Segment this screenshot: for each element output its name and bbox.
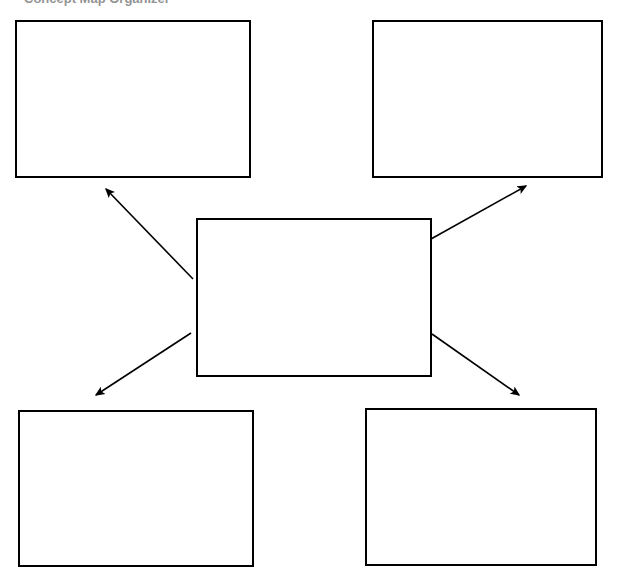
connector-center-to-top-right	[431, 186, 526, 239]
node-bottom-right[interactable]	[365, 408, 597, 566]
diagram-canvas: Concept Map Organizer	[0, 0, 617, 585]
center-node[interactable]	[196, 218, 432, 377]
connector-center-to-top-left	[106, 189, 193, 279]
page-title: Concept Map Organizer	[24, 0, 170, 6]
node-top-left[interactable]	[15, 20, 251, 178]
node-bottom-left[interactable]	[18, 410, 254, 567]
node-top-right[interactable]	[372, 20, 603, 178]
connector-center-to-bottom-left	[96, 333, 191, 395]
header-text-clip: Concept Map Organizer	[0, 0, 617, 7]
connector-center-to-bottom-right	[432, 334, 519, 395]
